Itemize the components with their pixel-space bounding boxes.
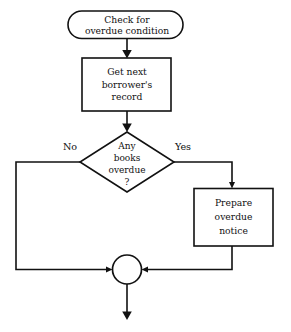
flowchart-canvas: Check for overdue condition Get next bor… — [0, 0, 291, 332]
edge-yes-branch — [174, 162, 235, 189]
decision-overdue-line-3: overdue — [108, 165, 145, 175]
process-prepare-notice-line-3: notice — [219, 225, 248, 236]
terminal-start-line-1: Check for — [104, 14, 150, 25]
decision-overdue-line-2: books — [114, 153, 141, 163]
flowchart-diagram: Check for overdue condition Get next bor… — [0, 0, 291, 332]
node-connector-merge[interactable] — [113, 255, 142, 284]
arrowhead-prepare-to-connector — [142, 267, 149, 273]
process-get-record-line-2: borrower's — [102, 79, 153, 90]
edge-prepare-to-connector — [142, 246, 233, 273]
decision-overdue-line-4: ? — [125, 177, 130, 187]
edge-no-branch — [16, 162, 113, 273]
node-process-get-record[interactable]: Get next borrower's record — [82, 58, 171, 111]
process-prepare-notice-line-2: overdue — [215, 211, 253, 222]
terminal-start-line-2: overdue condition — [85, 25, 169, 36]
path-yes-branch — [174, 162, 232, 182]
process-get-record-line-1: Get next — [107, 66, 147, 77]
decision-overdue-line-1: Any — [117, 141, 136, 151]
node-process-prepare-notice[interactable]: Prepare overdue notice — [194, 189, 273, 247]
path-no-branch — [16, 162, 106, 270]
node-terminal-start[interactable]: Check for overdue condition — [68, 11, 183, 39]
process-prepare-notice-line-1: Prepare — [215, 197, 252, 208]
node-decision-overdue[interactable]: Any books overdue ? — [80, 132, 174, 192]
branch-label-yes: Yes — [174, 141, 191, 152]
path-prepare-to-connector — [148, 246, 232, 270]
process-get-record-line-3: record — [112, 91, 143, 102]
branch-label-no: No — [63, 141, 77, 152]
connector-merge-shape — [113, 255, 142, 284]
arrowhead-no-branch — [106, 267, 113, 273]
arrowhead-yes-branch — [229, 182, 235, 189]
